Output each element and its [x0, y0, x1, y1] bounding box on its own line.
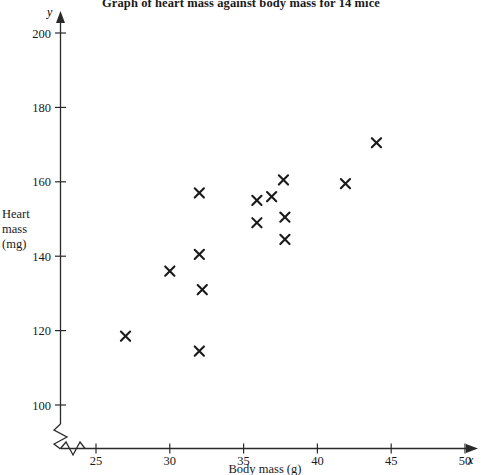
data-point [252, 218, 261, 227]
plot-area: 100120140160180200 253035404550 y x Body… [0, 0, 482, 475]
data-point [279, 175, 288, 184]
y-tick-label: 160 [32, 175, 51, 189]
x-tick-label: 25 [90, 454, 103, 468]
y-tick-label: 100 [32, 399, 51, 413]
data-point [267, 192, 276, 201]
x-axis-letter: x [467, 453, 474, 467]
x-axis-title: Body mass (g) [229, 462, 302, 475]
x-tick-label: 30 [164, 454, 177, 468]
data-point [165, 266, 174, 275]
data-point-group [121, 138, 381, 356]
x-axis-arrowhead [466, 444, 478, 453]
data-point [341, 179, 350, 188]
data-point [252, 196, 261, 205]
scatter-plot-figure: Graph of heart mass against body mass fo… [0, 0, 482, 475]
data-point [198, 285, 207, 294]
data-point [121, 332, 130, 341]
y-axis-letter: y [46, 5, 53, 19]
y-tick-label: 180 [32, 101, 51, 115]
data-point [280, 235, 289, 244]
y-tick-label: 200 [32, 27, 51, 41]
data-point [195, 188, 204, 197]
data-point [195, 250, 204, 259]
data-point [195, 346, 204, 355]
y-tick-label: 120 [32, 324, 51, 338]
data-point [280, 213, 289, 222]
y-tick-label: 140 [32, 250, 51, 264]
x-tick-label: 45 [385, 454, 398, 468]
y-axis-break-icon [54, 424, 67, 449]
data-point [372, 138, 381, 147]
x-tick-label: 40 [311, 454, 324, 468]
y-axis-arrowhead [56, 11, 65, 23]
